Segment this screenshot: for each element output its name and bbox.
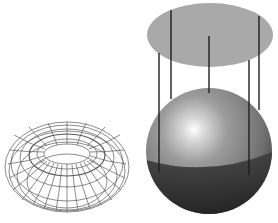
torus-wireframe	[5, 122, 129, 212]
figure-canvas	[0, 0, 278, 223]
projection-disk	[147, 3, 273, 67]
shaded-sphere	[146, 88, 272, 223]
